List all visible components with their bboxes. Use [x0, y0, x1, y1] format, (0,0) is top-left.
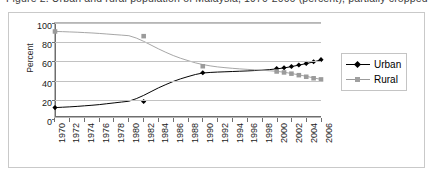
x-tick-mark	[173, 118, 174, 122]
x-tick-mark	[188, 118, 189, 122]
x-tick-mark	[321, 118, 322, 122]
x-tick-mark	[113, 118, 114, 122]
x-tick-mark	[306, 118, 307, 122]
y-tick-mark	[52, 100, 55, 101]
x-tick-label: 1996	[250, 123, 259, 143]
y-tick-label: 60	[23, 60, 52, 69]
x-axis-tick-labels: 1970197219741976197819801982198419861988…	[54, 123, 334, 167]
chart-legend: Urban Rural	[341, 53, 407, 91]
chart-object-frame: Percent 100806040200 1970197219741976197…	[8, 12, 425, 168]
data-point-marker-square	[304, 75, 309, 80]
series-line-rural	[55, 31, 321, 79]
x-tick-label: 2000	[280, 123, 289, 143]
x-tick-mark	[143, 118, 144, 122]
x-tick-mark	[217, 118, 218, 122]
x-tick-mark	[277, 118, 278, 122]
data-point-marker-square	[274, 69, 279, 74]
legend-item-urban[interactable]: Urban	[345, 57, 401, 72]
legend-marker-urban-icon	[345, 59, 371, 70]
x-tick-label: 2004	[310, 123, 319, 143]
x-tick-label: 2002	[295, 123, 304, 143]
x-tick-mark	[202, 118, 203, 122]
x-tick-label: 1990	[206, 123, 215, 143]
square-marker-icon	[355, 77, 360, 82]
gridline	[55, 100, 321, 101]
x-tick-label: 1986	[176, 123, 185, 143]
x-tick-label: 1972	[72, 123, 81, 143]
x-tick-label: 1998	[265, 123, 274, 143]
legend-marker-rural-icon	[345, 74, 371, 85]
legend-label-urban: Urban	[371, 59, 401, 70]
gridline	[55, 61, 321, 62]
x-tick-label: 1978	[117, 123, 126, 143]
x-tick-label: 1970	[58, 123, 67, 143]
x-tick-mark	[84, 118, 85, 122]
series-lines	[55, 23, 321, 117]
y-tick-mark	[52, 23, 55, 24]
data-point-marker-square	[53, 29, 58, 34]
plot-area	[54, 22, 321, 118]
gridline	[55, 42, 321, 43]
x-tick-label: 1980	[132, 123, 141, 143]
gridline	[55, 23, 321, 24]
data-point-marker-diamond	[200, 70, 205, 75]
figure-caption-text: Figure 2. Urban and rural population of …	[6, 0, 428, 4]
x-tick-mark	[54, 118, 55, 122]
y-tick-label: 20	[23, 98, 52, 107]
data-point-marker-diamond	[289, 64, 294, 69]
x-tick-mark	[99, 118, 100, 122]
x-tick-mark	[158, 118, 159, 122]
x-tick-mark	[232, 118, 233, 122]
y-tick-mark	[52, 61, 55, 62]
x-tick-label: 1974	[87, 123, 96, 143]
legend-label-rural: Rural	[371, 74, 398, 85]
x-tick-mark	[247, 118, 248, 122]
data-point-marker-square	[282, 70, 287, 75]
data-point-marker-diamond	[296, 62, 301, 67]
y-tick-mark	[52, 81, 55, 82]
data-point-marker-square	[141, 34, 146, 39]
x-tick-label: 1982	[147, 123, 156, 143]
x-tick-label: 1994	[236, 123, 245, 143]
x-tick-label: 1992	[221, 123, 230, 143]
x-tick-label: 1988	[191, 123, 200, 143]
y-tick-label: 80	[23, 41, 52, 50]
x-tick-mark	[262, 118, 263, 122]
x-tick-label: 2006	[325, 123, 334, 143]
x-tick-mark	[128, 118, 129, 122]
x-tick-label: 1976	[102, 123, 111, 143]
data-point-marker-square	[297, 73, 302, 78]
figure-caption-cropped: Figure 2. Urban and rural population of …	[0, 0, 436, 9]
legend-item-rural[interactable]: Rural	[345, 72, 401, 87]
x-tick-label: 1984	[161, 123, 170, 143]
y-tick-mark	[52, 42, 55, 43]
data-point-marker-square	[200, 64, 205, 69]
x-tick-mark	[69, 118, 70, 122]
gridline	[55, 81, 321, 82]
data-point-marker-diamond	[52, 105, 57, 110]
diamond-marker-icon	[354, 60, 361, 67]
y-tick-label: 0	[23, 118, 52, 127]
data-point-marker-diamond	[281, 65, 286, 70]
data-point-marker-square	[289, 71, 294, 76]
y-tick-label: 100	[23, 22, 52, 31]
y-tick-label: 40	[23, 79, 52, 88]
y-axis-tick-labels: 100806040200	[23, 17, 52, 113]
x-tick-mark	[291, 118, 292, 122]
